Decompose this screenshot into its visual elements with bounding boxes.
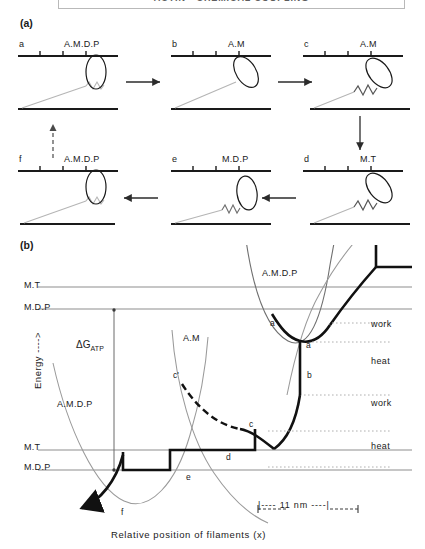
partition-label-heat-1: heat	[371, 357, 390, 366]
point-label-f: f	[121, 508, 123, 517]
partition-label-heat-2: heat	[371, 442, 390, 451]
partition-label-work-1: work	[371, 320, 392, 329]
state-key-c: c	[304, 40, 309, 49]
curve-label-amdp-centre: A.M.D.P	[262, 269, 298, 278]
panel-a-diagram	[0, 20, 425, 235]
cycle-state-a	[18, 51, 118, 109]
curve-amdp-centre	[246, 245, 337, 343]
level-label-mt-upper: M.T	[24, 281, 40, 290]
state-name-d: M.T	[360, 155, 376, 164]
state-name-b: A.M	[228, 40, 245, 49]
trajectory-cprime-c-dashed	[182, 384, 240, 429]
state-key-b: b	[172, 40, 177, 49]
partition-label-work-2: work	[371, 399, 392, 408]
curve-amdp-left	[53, 337, 208, 504]
state-name-a: A.M.D.P	[64, 40, 100, 49]
figure-root: ACTIN - CHEMICAL COUPLING (a) (b)	[0, 0, 425, 549]
state-name-e: M.D.P	[222, 155, 249, 164]
trajectory-b-down	[274, 395, 300, 449]
cycle-state-d	[303, 166, 410, 224]
state-name-f: A.M.D.P	[64, 155, 100, 164]
level-label-mdp-lower: M.D.P	[24, 463, 51, 472]
delta-g-atp-arrow	[112, 308, 115, 471]
delta-g-symbol: ΔG	[76, 339, 90, 350]
state-key-f: f	[19, 155, 22, 164]
point-label-a: a	[306, 341, 311, 350]
point-label-e: e	[186, 473, 191, 482]
scale-bar-label: |---- 11 nm ----|	[258, 501, 330, 510]
point-label-c-prime: c'	[173, 371, 179, 380]
x-axis-label: Relative position of filaments (x)	[111, 530, 266, 540]
curve-label-am: A.M	[183, 334, 200, 343]
cycle-state-b	[171, 51, 271, 109]
point-label-c: c	[249, 420, 253, 429]
level-label-mdp-upper: M.D.P	[24, 303, 51, 312]
curve-am-middle	[172, 330, 268, 523]
point-label-a-prime: a'	[270, 319, 276, 328]
cycle-state-c	[303, 51, 410, 109]
cycle-state-e	[171, 166, 271, 224]
state-key-d: d	[304, 155, 309, 164]
trajectory-a-work	[330, 267, 376, 325]
running-head-title: ACTIN - CHEMICAL COUPLING	[58, 0, 405, 2]
state-name-c: A.M	[360, 40, 377, 49]
cycle-state-f	[18, 166, 118, 224]
delta-g-subscript: ATP	[90, 345, 104, 352]
state-key-e: e	[172, 155, 177, 164]
panel-b-energy-diagram	[0, 245, 425, 549]
y-axis-label: Energy ---->	[32, 316, 43, 406]
trajectory-c-basin	[240, 429, 274, 449]
curve-label-amdp-left: A.M.D.P	[57, 400, 93, 409]
delta-g-atp-label: ΔGATP	[76, 340, 104, 352]
state-key-a: a	[19, 40, 24, 49]
point-label-b: b	[307, 371, 312, 380]
point-label-d: d	[226, 453, 231, 462]
level-label-mt-lower: M.T	[24, 443, 40, 452]
trajectory-e-f-arrow	[82, 455, 123, 508]
